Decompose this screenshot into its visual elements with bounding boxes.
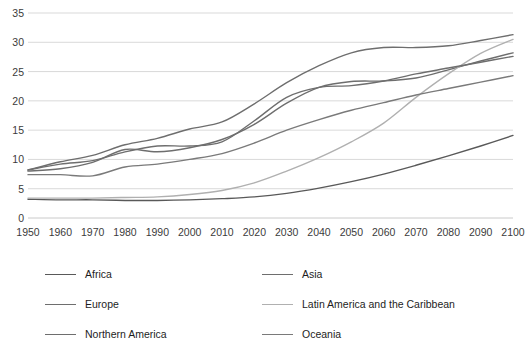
legend-item[interactable]: Latin America and the Caribbean xyxy=(262,297,455,311)
x-axis-tick-label: 2000 xyxy=(178,226,201,238)
legend-color-swatch xyxy=(262,274,293,275)
x-axis-tick-label: 1980 xyxy=(113,226,136,238)
legend-item-label: Latin America and the Caribbean xyxy=(302,299,455,310)
x-axis-tick-label: 2050 xyxy=(340,226,363,238)
series-line xyxy=(28,135,513,200)
x-axis-tick-label: 2060 xyxy=(372,226,395,238)
y-axis-tick-label: 25 xyxy=(0,67,24,77)
x-axis-tick-label: 1950 xyxy=(16,226,39,238)
y-axis-tick-label: 10 xyxy=(0,154,24,164)
line-chart: 05101520253035 1950196019701980199020002… xyxy=(0,0,526,349)
x-axis-tick-label: 1970 xyxy=(81,226,104,238)
x-axis-tick-label: 1990 xyxy=(146,226,169,238)
y-axis-labels: 05101520253035 xyxy=(0,0,24,231)
plot-area xyxy=(28,13,513,218)
y-axis-tick-label: 15 xyxy=(0,125,24,135)
y-axis-tick-label: 35 xyxy=(0,8,24,18)
legend-item-label: Oceania xyxy=(302,329,341,340)
legend-color-swatch xyxy=(45,304,76,305)
y-axis-tick-label: 20 xyxy=(0,96,24,106)
y-axis-tick-label: 0 xyxy=(0,213,24,223)
gridlines xyxy=(28,13,513,218)
legend-color-swatch xyxy=(262,304,293,305)
series-line xyxy=(28,76,513,177)
x-axis-tick-label: 1960 xyxy=(49,226,72,238)
x-axis-labels: 1950196019701980199020002010202020302040… xyxy=(28,226,513,244)
legend-item[interactable]: Africa xyxy=(45,267,112,281)
legend-item-label: Asia xyxy=(302,269,322,280)
x-axis-tick-label: 2100 xyxy=(501,226,524,238)
x-axis-tick-label: 2090 xyxy=(469,226,492,238)
chart-legend: AfricaAsiaEuropeLatin America and the Ca… xyxy=(0,255,526,349)
y-axis-tick-label: 5 xyxy=(0,184,24,194)
legend-color-swatch xyxy=(262,334,293,335)
x-axis-tick-label: 2070 xyxy=(404,226,427,238)
legend-color-swatch xyxy=(45,274,76,275)
y-axis-tick-label: 30 xyxy=(0,37,24,47)
x-axis-tick-label: 2010 xyxy=(210,226,233,238)
legend-item-label: Africa xyxy=(85,269,112,280)
legend-item[interactable]: Europe xyxy=(45,297,119,311)
legend-item[interactable]: Oceania xyxy=(262,327,341,341)
series-line xyxy=(28,35,513,170)
legend-item[interactable]: Asia xyxy=(262,267,322,281)
plot-svg xyxy=(28,13,513,218)
x-axis-tick-label: 2020 xyxy=(243,226,266,238)
legend-color-swatch xyxy=(45,334,76,335)
legend-item-label: Northern America xyxy=(85,329,167,340)
x-axis-tick-label: 2080 xyxy=(437,226,460,238)
x-axis-tick-label: 2030 xyxy=(275,226,298,238)
x-axis-tick-label: 2040 xyxy=(307,226,330,238)
series-lines xyxy=(28,35,513,201)
legend-item-label: Europe xyxy=(85,299,119,310)
legend-item[interactable]: Northern America xyxy=(45,327,167,341)
